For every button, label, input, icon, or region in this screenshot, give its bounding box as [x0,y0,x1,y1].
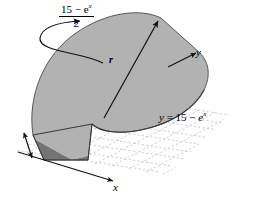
fraction-denominator: 2 [59,17,94,29]
y-axis-label: y [196,47,201,58]
equation-exponent-x: x [203,110,206,118]
figure-container: 15 − ex 2 r y x y = 15 − ex [0,0,264,203]
exponent-x: x [89,2,92,10]
equation-minus: − [187,111,199,123]
radius-label: r [109,55,113,65]
equation-equals: = [164,111,176,123]
solid-upper-surface [32,13,208,160]
radius-fraction-label: 15 − ex 2 [59,4,94,29]
x-axis-label: x [113,182,118,193]
fraction-numerator: 15 − ex [59,4,94,16]
curve-equation-label: y = 15 − ex [159,112,206,123]
math-figure-svg [0,0,264,203]
equation-rhs-prefix: 15 [176,111,187,123]
